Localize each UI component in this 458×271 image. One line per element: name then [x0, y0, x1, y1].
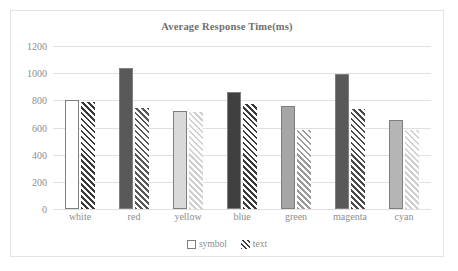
- legend-item-text[interactable]: text: [241, 239, 267, 249]
- bar-group-red: [107, 46, 161, 209]
- x-axis-label-blue: blue: [215, 211, 269, 229]
- gridline: 0: [53, 209, 431, 210]
- bar-group-magenta: [323, 46, 377, 209]
- bar-text-green[interactable]: [297, 130, 311, 209]
- bar-group-yellow: [161, 46, 215, 209]
- chart-frame: Average Response Time(ms) 02004006008001…: [10, 10, 444, 257]
- chart-title: Average Response Time(ms): [11, 21, 443, 32]
- bar-text-cyan[interactable]: [405, 130, 419, 209]
- bar-symbol-yellow[interactable]: [173, 111, 187, 209]
- y-axis-tick-label: 800: [32, 95, 47, 106]
- x-axis-label-magenta: magenta: [323, 211, 377, 229]
- bar-group-white: [53, 46, 107, 209]
- x-axis-label-cyan: cyan: [377, 211, 431, 229]
- bar-symbol-red[interactable]: [119, 68, 133, 209]
- bar-text-yellow[interactable]: [189, 112, 203, 209]
- y-axis-tick-label: 400: [32, 149, 47, 160]
- bar-symbol-magenta[interactable]: [335, 74, 349, 209]
- bar-text-white[interactable]: [81, 102, 95, 209]
- x-axis-label-yellow: yellow: [161, 211, 215, 229]
- legend-label-text: text: [253, 239, 267, 249]
- chart-legend: symbol text: [11, 239, 443, 249]
- y-axis-tick-label: 200: [32, 176, 47, 187]
- bar-group-cyan: [377, 46, 431, 209]
- x-axis-label-red: red: [107, 211, 161, 229]
- legend-swatch-symbol-icon: [187, 240, 196, 249]
- bar-groups: [53, 46, 431, 209]
- y-axis-tick-label: 0: [42, 204, 47, 215]
- x-axis-label-green: green: [269, 211, 323, 229]
- x-axis-label-white: white: [53, 211, 107, 229]
- legend-swatch-text-icon: [241, 240, 250, 249]
- x-axis-labels: whiteredyellowbluegreenmagentacyan: [53, 211, 431, 229]
- bar-text-red[interactable]: [135, 108, 149, 209]
- y-axis-tick-label: 600: [32, 122, 47, 133]
- plot-area: 020040060080010001200: [53, 46, 431, 209]
- bar-text-magenta[interactable]: [351, 109, 365, 209]
- bar-symbol-cyan[interactable]: [389, 120, 403, 209]
- legend-label-symbol: symbol: [199, 239, 227, 249]
- bar-text-blue[interactable]: [243, 104, 257, 209]
- legend-item-symbol[interactable]: symbol: [187, 239, 227, 249]
- bar-group-blue: [215, 46, 269, 209]
- bar-symbol-white[interactable]: [65, 100, 79, 209]
- bar-group-green: [269, 46, 323, 209]
- bar-symbol-green[interactable]: [281, 106, 295, 209]
- y-axis-tick-label: 1000: [27, 68, 47, 79]
- y-axis-tick-label: 1200: [27, 41, 47, 52]
- bar-symbol-blue[interactable]: [227, 92, 241, 209]
